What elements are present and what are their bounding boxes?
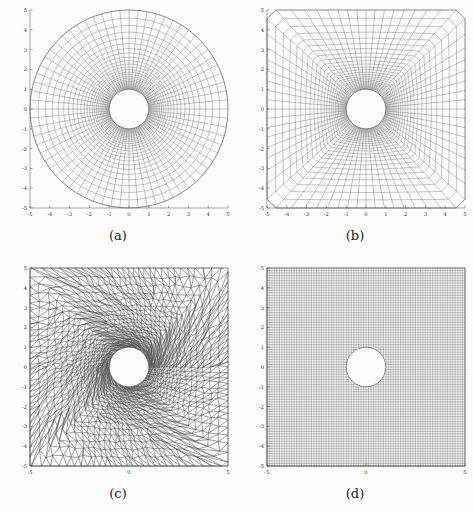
y-tick-label: -3	[259, 165, 264, 171]
y-tick-label: 2	[261, 66, 264, 72]
x-tick-label: -3	[304, 211, 309, 217]
y-tick-label: -4	[259, 443, 265, 449]
circular-hole	[109, 89, 149, 129]
x-tick-label: -4	[47, 211, 53, 217]
x-tick-label: 2	[404, 211, 407, 217]
y-tick-label: 1	[261, 86, 264, 92]
y-tick-label: -5	[22, 205, 27, 211]
panel-d: -505-5-4-3-2-1012345 (d)	[237, 258, 473, 512]
x-tick-label: 3	[424, 211, 427, 217]
x-tick-label: 3	[187, 211, 190, 217]
x-tick-label: -1	[344, 211, 349, 217]
y-tick-label: -4	[22, 443, 28, 449]
y-tick-label: 3	[261, 305, 264, 311]
y-tick-label: -3	[259, 423, 264, 429]
y-tick-label: -1	[22, 126, 27, 132]
y-tick-label: 0	[24, 364, 27, 370]
x-tick-label: 5	[463, 211, 466, 217]
panel-c: -505-5-4-3-2-1012345 (c)	[0, 258, 236, 512]
panel-b-plot: -5-4-3-2-1012345-5-4-3-2-1012345	[237, 0, 473, 226]
y-tick-label: -5	[22, 463, 27, 469]
x-tick-label: -5	[264, 469, 269, 475]
x-tick-label: 5	[226, 211, 229, 217]
y-tick-label: 4	[261, 27, 265, 33]
circular-hole	[346, 89, 386, 129]
y-tick-label: 4	[261, 285, 265, 291]
panel-c-caption: (c)	[0, 486, 236, 501]
y-tick-label: 2	[24, 324, 27, 330]
y-tick-label: 4	[24, 27, 28, 33]
panel-a-plot: -5-4-3-2-1012345-5-4-3-2-1012345	[0, 0, 236, 226]
panel-c-plot: -505-5-4-3-2-1012345	[0, 258, 236, 484]
y-tick-label: 0	[24, 106, 27, 112]
x-tick-label: -4	[284, 211, 290, 217]
y-tick-label: -2	[22, 146, 27, 152]
x-tick-label: 0	[127, 469, 130, 475]
y-tick-label: -2	[259, 146, 264, 152]
x-tick-label: 4	[444, 211, 448, 217]
y-tick-label: 5	[24, 7, 27, 13]
y-tick-label: -5	[259, 463, 264, 469]
panel-d-caption: (d)	[237, 486, 473, 501]
x-tick-label: -3	[67, 211, 72, 217]
y-tick-label: 2	[24, 66, 27, 72]
panel-a: -5-4-3-2-1012345-5-4-3-2-1012345 (a)	[0, 0, 236, 256]
x-tick-label: 1	[384, 211, 387, 217]
panel-b-caption: (b)	[237, 228, 473, 243]
y-tick-label: 0	[261, 106, 264, 112]
x-tick-label: 0	[127, 211, 130, 217]
mesh-figure: -5-4-3-2-1012345-5-4-3-2-1012345 (a) -5-…	[0, 0, 473, 512]
y-tick-label: 1	[261, 344, 264, 350]
y-tick-label: -5	[259, 205, 264, 211]
y-tick-label: -1	[259, 384, 264, 390]
y-tick-label: -3	[22, 423, 27, 429]
y-tick-label: -2	[22, 404, 27, 410]
x-tick-label: -2	[324, 211, 329, 217]
x-tick-label: 4	[207, 211, 211, 217]
y-tick-label: 5	[24, 265, 27, 271]
x-tick-label: 2	[167, 211, 170, 217]
y-tick-label: 1	[24, 86, 27, 92]
y-tick-label: -4	[259, 185, 265, 191]
y-tick-label: 2	[261, 324, 264, 330]
y-tick-label: 3	[24, 47, 27, 53]
y-tick-label: 3	[24, 305, 27, 311]
panel-d-plot: -505-5-4-3-2-1012345	[237, 258, 473, 484]
x-tick-label: -5	[27, 469, 32, 475]
y-tick-label: -1	[259, 126, 264, 132]
y-tick-label: -1	[22, 384, 27, 390]
circular-hole	[346, 347, 386, 387]
x-tick-label: 0	[364, 469, 367, 475]
x-tick-label: 5	[226, 469, 229, 475]
y-tick-label: 0	[261, 364, 264, 370]
panel-a-caption: (a)	[0, 228, 236, 243]
x-tick-label: 0	[364, 211, 367, 217]
y-tick-label: 3	[261, 47, 264, 53]
x-tick-label: 5	[463, 469, 466, 475]
y-tick-label: -3	[22, 165, 27, 171]
x-tick-label: -1	[107, 211, 112, 217]
y-tick-label: 5	[261, 7, 264, 13]
x-tick-label: -5	[264, 211, 269, 217]
y-tick-label: 5	[261, 265, 264, 271]
y-tick-label: -4	[22, 185, 28, 191]
y-tick-label: -2	[259, 404, 264, 410]
panel-b: -5-4-3-2-1012345-5-4-3-2-1012345 (b)	[237, 0, 473, 256]
x-tick-label: 1	[147, 211, 150, 217]
y-tick-label: 4	[24, 285, 28, 291]
x-tick-label: -2	[87, 211, 92, 217]
y-tick-label: 1	[24, 344, 27, 350]
circular-hole	[109, 347, 149, 387]
x-tick-label: -5	[27, 211, 32, 217]
